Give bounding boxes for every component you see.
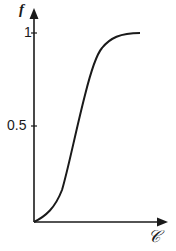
y-tick-label-0.5: 0.5 (7, 117, 26, 133)
chart: f 1 0.5 𝒞 (0, 0, 176, 251)
y-axis-label: f (19, 1, 24, 18)
y-axis-arrow-icon (30, 8, 39, 19)
x-axis-label: 𝒞 (148, 227, 160, 247)
x-axis-arrow-icon (157, 218, 168, 227)
y-tick-label-1: 1 (24, 24, 32, 40)
data-curve (34, 33, 140, 222)
